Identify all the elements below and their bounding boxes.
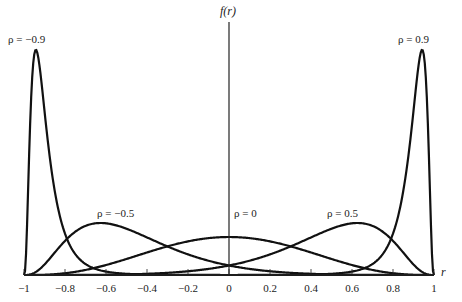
x-axis-label: r bbox=[441, 265, 446, 279]
curve-label: ρ = 0 bbox=[234, 207, 257, 219]
curve-label: ρ = −0.9 bbox=[8, 33, 46, 45]
x-tick-label: 0.4 bbox=[304, 282, 318, 294]
correlation-density-chart: −1−0.8−0.6−0.4−0.200.20.40.60.81 ρ = −0.… bbox=[0, 0, 462, 302]
x-tick-label: 0.2 bbox=[263, 282, 277, 294]
curve-label: ρ = −0.5 bbox=[97, 207, 135, 219]
x-tick-label: −0.8 bbox=[55, 282, 75, 294]
y-axis-label: f(r) bbox=[220, 4, 236, 18]
x-tick-label: 0.8 bbox=[386, 282, 400, 294]
x-tick-label: −0.2 bbox=[178, 282, 198, 294]
x-tick-label: −1 bbox=[18, 282, 30, 294]
x-tick-label: 0.6 bbox=[345, 282, 359, 294]
curve-label: ρ = 0.5 bbox=[327, 207, 358, 219]
x-tick-label: 1 bbox=[431, 282, 437, 294]
x-tick-label: −0.6 bbox=[96, 282, 116, 294]
curve-annotations: ρ = −0.9ρ = −0.5ρ = 0ρ = 0.5ρ = 0.9 bbox=[8, 33, 429, 219]
x-axis-tick-labels: −1−0.8−0.6−0.4−0.200.20.40.60.81 bbox=[18, 282, 437, 294]
curve-label: ρ = 0.9 bbox=[398, 33, 429, 45]
x-tick-label: 0 bbox=[226, 282, 232, 294]
x-tick-label: −0.4 bbox=[137, 282, 157, 294]
